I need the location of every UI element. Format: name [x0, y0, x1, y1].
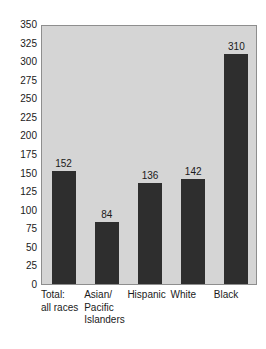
bar-group: 310: [215, 26, 258, 284]
y-axis-tick-label: 250: [20, 94, 37, 104]
x-axis-category-label-line: all races: [41, 302, 84, 315]
bar-group: 142: [172, 26, 215, 284]
x-axis-category-label-line: White: [171, 289, 214, 302]
bar: [181, 179, 205, 284]
x-axis-category-label-line: Pacific: [84, 302, 127, 315]
x-axis-category-label: Hispanic: [127, 289, 170, 302]
x-axis-category-label: Black: [214, 289, 257, 302]
y-axis-tick-label: 0: [31, 280, 37, 290]
y-axis-tick-label: 75: [26, 224, 37, 234]
y-axis: 0255075100125150175200225250275300325350: [0, 0, 40, 349]
y-axis-tick-label: 25: [26, 261, 37, 271]
plot-area: 15284136142310: [41, 25, 257, 285]
x-axis-category-label-line: Asian/: [84, 289, 127, 302]
y-axis-tick-label: 225: [20, 113, 37, 123]
y-axis-tick-label: 150: [20, 169, 37, 179]
y-axis-tick-label: 175: [20, 150, 37, 160]
bar-value-label: 84: [101, 210, 112, 220]
bar-value-label: 136: [142, 171, 159, 181]
bar: [224, 54, 248, 284]
x-axis-category-label-line: Black: [214, 289, 257, 302]
y-axis-tick-label: 100: [20, 206, 37, 216]
y-axis-tick-label: 50: [26, 243, 37, 253]
x-axis-category-label-line: Hispanic: [127, 289, 170, 302]
x-axis-category-label-line: Islanders: [84, 314, 127, 327]
y-axis-tick-label: 325: [20, 39, 37, 49]
x-axis-category-label: Total:all races: [41, 289, 84, 314]
x-axis: Total:all racesAsian/PacificIslandersHis…: [41, 289, 257, 349]
bar-group: 152: [42, 26, 85, 284]
x-axis-category-label: Asian/PacificIslanders: [84, 289, 127, 327]
bar-value-label: 310: [228, 42, 245, 52]
y-axis-tick-label: 350: [20, 20, 37, 30]
bar: [95, 222, 119, 284]
bar-chart-figure: 0255075100125150175200225250275300325350…: [0, 0, 266, 349]
y-axis-tick-label: 125: [20, 187, 37, 197]
y-axis-tick-label: 300: [20, 57, 37, 67]
x-axis-category-label-line: Total:: [41, 289, 84, 302]
bar-value-label: 142: [185, 167, 202, 177]
bar: [52, 171, 76, 284]
bar-group: 136: [128, 26, 171, 284]
y-axis-tick-label: 200: [20, 131, 37, 141]
x-axis-category-label: White: [171, 289, 214, 302]
y-axis-tick-label: 275: [20, 76, 37, 86]
bar-value-label: 152: [55, 159, 72, 169]
bar-group: 84: [85, 26, 128, 284]
bar: [138, 183, 162, 284]
